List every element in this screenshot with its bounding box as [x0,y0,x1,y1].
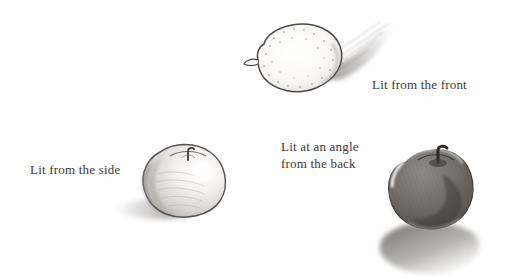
drawing-lemon-lit-from-front [236,8,406,108]
apple-side-highlight [191,163,217,181]
apple-side-illustration [100,128,270,238]
apple-back-cast-shadow [380,223,480,274]
lemon-illustration [236,8,406,108]
drawing-page: Lit from the front Lit from the side Lit… [0,0,508,278]
caption-lit-from-front: Lit from the front [372,76,467,93]
caption-lit-from-back: Lit at an angle from the back [281,138,359,172]
apple-back-illustration [368,126,508,278]
caption-lit-from-side: Lit from the side [30,161,120,178]
drawing-apple-lit-from-side [100,128,270,238]
drawing-apple-lit-from-back [368,126,508,278]
